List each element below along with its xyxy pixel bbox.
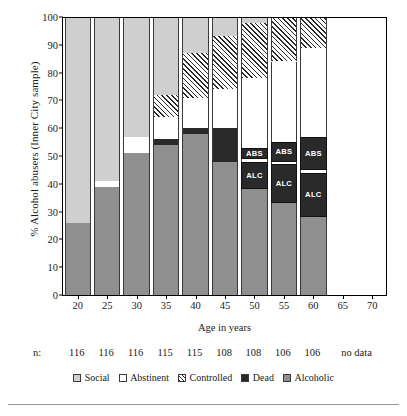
legend: SocialAbstinentControlledDeadAlcoholic <box>0 372 407 383</box>
y-tick-mark <box>59 17 63 18</box>
legend-item-alcoholic[interactable]: Alcoholic <box>283 372 334 383</box>
bar-age-55[interactable]: ALCABS <box>271 17 297 295</box>
legend-label: Controlled <box>190 372 233 383</box>
controlled-swatch-icon <box>178 374 186 382</box>
x-tick-mark <box>254 295 255 299</box>
segment-abstinent <box>241 78 267 148</box>
segment-social <box>212 17 238 36</box>
segment-abstinent <box>300 48 326 137</box>
bar-age-35[interactable] <box>153 17 179 295</box>
dead-swatch-icon <box>241 374 249 382</box>
legend-label: Abstinent <box>130 372 169 383</box>
legend-label: Social <box>85 372 110 383</box>
segment-alcoholic <box>123 153 149 295</box>
y-tick-label: 10 <box>48 262 59 273</box>
segment-dead-alc: ALC <box>300 173 326 217</box>
x-tick-label: 55 <box>279 300 290 311</box>
x-axis-title: Age in years <box>62 322 387 333</box>
segment-social <box>241 17 267 23</box>
segment-abstinent <box>271 62 297 143</box>
segment-abstinent <box>212 89 238 128</box>
y-tick-label: 80 <box>48 67 59 78</box>
abstinent-swatch-icon <box>119 374 127 382</box>
segment-social <box>182 17 208 53</box>
segment-abstinent <box>153 117 179 139</box>
y-tick-mark <box>59 100 63 101</box>
y-tick-label: 40 <box>48 178 59 189</box>
x-tick-mark <box>107 295 108 299</box>
segment-dead-abs: ABS <box>300 137 326 170</box>
legend-label: Dead <box>253 372 274 383</box>
segment-dead-abs: ABS <box>241 148 267 159</box>
footer-divider <box>8 404 399 405</box>
bar-age-45[interactable] <box>212 17 238 295</box>
y-tick-label: 60 <box>48 123 59 134</box>
y-tick-label: 100 <box>42 12 58 23</box>
legend-item-controlled[interactable]: Controlled <box>178 372 232 383</box>
bar-age-60[interactable]: ALCABS <box>300 17 326 295</box>
legend-item-dead[interactable]: Dead <box>241 372 274 383</box>
legend-item-social[interactable]: Social <box>73 372 110 383</box>
segment-alcoholic <box>94 187 120 295</box>
segment-alcoholic <box>241 189 267 295</box>
segment-abstinent <box>123 137 149 154</box>
y-tick-mark <box>59 211 63 212</box>
x-tick-label: 45 <box>220 300 231 311</box>
segment-alcoholic <box>65 223 91 295</box>
x-tick-mark <box>284 295 285 299</box>
chart-container: % Alcohol abusers (Inner City sample) AL… <box>0 0 407 416</box>
bar-age-20[interactable] <box>65 17 91 295</box>
bar-age-40[interactable] <box>182 17 208 295</box>
sample-size-value: 115 <box>157 347 172 358</box>
x-tick-mark <box>78 295 79 299</box>
x-tick-label: 60 <box>308 300 319 311</box>
segment-controlled <box>241 23 267 79</box>
y-tick-label: 90 <box>48 39 59 50</box>
x-tick-mark <box>225 295 226 299</box>
bar-group: ALCABSALCABSALCABS <box>63 17 387 295</box>
x-tick-mark <box>372 295 373 299</box>
segment-controlled <box>153 95 179 117</box>
segment-controlled <box>212 36 238 89</box>
sample-size-value: 116 <box>128 347 143 358</box>
segment-dead <box>153 139 179 145</box>
y-tick-mark <box>59 267 63 268</box>
segment-alcoholic <box>182 134 208 295</box>
y-tick-label: 30 <box>48 206 59 217</box>
sample-size-value: 115 <box>187 347 202 358</box>
segment-controlled <box>300 17 326 48</box>
sample-size-value: 116 <box>98 347 113 358</box>
social-swatch-icon <box>73 374 81 382</box>
segment-alcoholic <box>300 217 326 295</box>
segment-controlled <box>182 53 208 97</box>
segment-controlled <box>271 17 297 61</box>
segment-alcoholic <box>153 145 179 295</box>
x-tick-label: 30 <box>131 300 142 311</box>
y-tick-label: 50 <box>48 151 59 162</box>
segment-alcoholic <box>212 162 238 295</box>
y-tick-mark <box>59 72 63 73</box>
x-tick-label: 50 <box>249 300 260 311</box>
no-data-text: no data <box>341 347 372 358</box>
x-tick-mark <box>343 295 344 299</box>
bar-age-50[interactable]: ALCABS <box>241 17 267 295</box>
segment-abstinent <box>94 181 120 187</box>
sample-size-label: n: <box>33 347 41 358</box>
x-tick-mark <box>137 295 138 299</box>
y-tick-mark <box>59 183 63 184</box>
segment-alcoholic <box>271 203 297 295</box>
segment-social <box>123 17 149 137</box>
x-tick-mark <box>196 295 197 299</box>
y-tick-mark <box>59 295 63 296</box>
x-tick-mark <box>166 295 167 299</box>
y-tick-mark <box>59 239 63 240</box>
bar-age-30[interactable] <box>123 17 149 295</box>
x-tick-label: 25 <box>102 300 113 311</box>
bar-age-25[interactable] <box>94 17 120 295</box>
sample-size-value: 106 <box>304 347 320 358</box>
segment-abstinent <box>300 170 326 173</box>
plot-area: ALCABSALCABSALCABS 010203040506070809010… <box>62 17 387 296</box>
legend-item-abstinent[interactable]: Abstinent <box>119 372 169 383</box>
sample-size-row: n: 116116116115115108108106106no data <box>0 347 407 361</box>
y-tick-label: 70 <box>48 95 59 106</box>
